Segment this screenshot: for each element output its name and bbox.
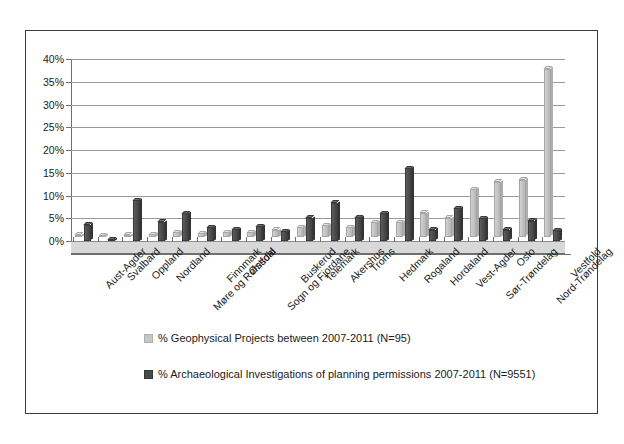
bar <box>355 217 362 241</box>
plot-area: 0%5%10%15%20%25%30%35%40% <box>71 59 565 241</box>
x-tick-mark <box>172 237 173 242</box>
y-tick-label: 40% <box>43 53 64 65</box>
bar-group <box>145 59 170 241</box>
bar-group <box>367 59 392 241</box>
bar <box>396 222 403 237</box>
bar <box>346 227 353 237</box>
x-tick-mark <box>518 237 519 242</box>
bar-side-face <box>560 228 562 240</box>
bar-body <box>331 203 338 241</box>
bar-body <box>396 222 403 237</box>
x-tick-mark <box>147 237 148 242</box>
bar-body <box>371 222 378 237</box>
bar-series-container <box>71 59 565 247</box>
bar-side-face <box>313 216 315 240</box>
x-tick-mark <box>345 237 346 242</box>
bar-side-face <box>338 201 340 240</box>
x-tick-mark <box>320 237 321 242</box>
x-tick-mark <box>295 237 296 242</box>
bar-body <box>232 229 239 241</box>
bar <box>528 221 535 241</box>
bar <box>553 230 560 241</box>
bar <box>544 69 551 237</box>
bar-body <box>158 222 165 241</box>
bar <box>133 200 140 241</box>
bar <box>420 213 427 237</box>
bar-side-face <box>140 198 142 240</box>
bar <box>84 225 91 241</box>
bar-body <box>223 232 230 237</box>
bar <box>371 222 378 237</box>
bar-body <box>124 235 131 237</box>
bar <box>297 227 304 237</box>
x-tick-mark <box>122 237 123 242</box>
bar <box>124 235 131 237</box>
bar-group <box>120 59 145 241</box>
bar-group <box>417 59 442 241</box>
x-tick-mark <box>246 237 247 242</box>
bar-group <box>71 59 96 241</box>
bar-body <box>544 69 551 237</box>
y-tick-label: 10% <box>43 190 64 202</box>
legend-swatch-dark <box>144 370 153 379</box>
bar <box>281 231 288 241</box>
bar <box>454 208 461 241</box>
bar <box>75 235 82 237</box>
bar-side-face <box>387 211 389 240</box>
legend-label: % Archaeological Investigations of plann… <box>158 367 535 381</box>
bar-side-face <box>91 223 93 241</box>
bar-top-face <box>223 230 231 233</box>
bar-side-face <box>461 206 463 240</box>
bar-side-face <box>412 166 414 240</box>
bar-top-face <box>321 223 329 226</box>
bar-side-face <box>239 227 241 240</box>
legend-swatch-light <box>144 334 153 343</box>
y-tick-label: 35% <box>43 76 64 88</box>
bar-side-face <box>106 233 108 236</box>
bar-group <box>195 59 220 241</box>
y-tick-label: 5% <box>49 212 64 224</box>
bar-side-face <box>165 220 167 240</box>
x-tick-mark <box>493 237 494 242</box>
bar-body <box>207 227 214 241</box>
bar <box>445 218 452 237</box>
y-tick-label: 0% <box>49 235 64 247</box>
legend-label: % Geophysical Projects between 2007-2011… <box>158 331 411 345</box>
bar-side-face <box>551 67 553 237</box>
bar-side-face <box>486 216 488 240</box>
legend-item[interactable]: % Archaeological Investigations of plann… <box>144 367 574 381</box>
bar-side-face <box>214 226 216 241</box>
y-tick-label: 30% <box>43 99 64 111</box>
bar-group <box>293 59 318 241</box>
chart-legend: % Geophysical Projects between 2007-2011… <box>144 331 574 403</box>
y-tick-label: 15% <box>43 167 64 179</box>
bar-body <box>297 227 304 237</box>
bar-body <box>454 208 461 241</box>
x-tick-mark <box>394 237 395 242</box>
bar-body <box>75 235 82 237</box>
bar-group <box>343 59 368 241</box>
bar-group <box>466 59 491 241</box>
bar <box>173 232 180 237</box>
bar-body <box>84 225 91 241</box>
bar <box>272 230 279 237</box>
bar-body <box>445 218 452 237</box>
y-tick-label: 20% <box>43 144 64 156</box>
y-tick-label: 25% <box>43 121 64 133</box>
bar-body <box>198 233 205 237</box>
bar <box>232 229 239 241</box>
bar <box>405 168 412 241</box>
x-tick-mark <box>419 237 420 242</box>
bar-body <box>380 213 387 241</box>
bar <box>247 232 254 237</box>
bar-group <box>170 59 195 241</box>
chart-figure-frame: 0%5%10%15%20%25%30%35%40% Aust-AgderSval… <box>25 30 598 414</box>
legend-item[interactable]: % Geophysical Projects between 2007-2011… <box>144 331 574 345</box>
bar-body <box>553 230 560 241</box>
bar-group <box>318 59 343 241</box>
bar-side-face <box>263 225 265 241</box>
bar-group <box>540 59 565 241</box>
bar-group <box>269 59 294 241</box>
bar-side-face <box>115 237 117 240</box>
bar-side-face <box>288 229 290 240</box>
